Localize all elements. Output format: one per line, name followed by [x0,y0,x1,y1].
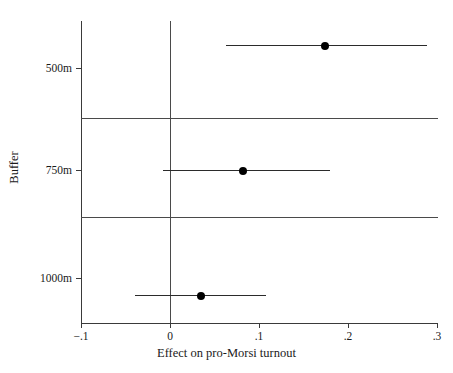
y-axis-title: Buffer [7,138,22,198]
x-tick-2 [259,323,260,328]
y-tick-label-500m: 500m [12,62,72,74]
estimate-marker-1000m [197,292,205,300]
x-tick-label-4: .3 [417,330,453,342]
coefficient-plot: −.10.1.2.3 500m750m1000m Effect on pro-M… [0,0,453,373]
x-tick-label-3: .2 [328,330,368,342]
estimate-marker-500m [321,42,329,50]
y-tick-label-1000m: 1000m [12,272,72,284]
x-tick-1 [170,323,171,328]
y-tick-1 [76,170,81,171]
x-tick-3 [348,323,349,328]
x-tick-0 [81,323,82,328]
panel-separator-1 [81,118,438,119]
panel-separator-2 [81,217,438,218]
x-tick-label-1: 0 [150,330,190,342]
x-axis-title: Effect on pro-Morsi turnout [0,346,453,361]
x-tick-4 [437,323,438,328]
zero-reference-line [170,21,171,324]
y-tick-0 [76,68,81,69]
x-tick-label-0: −.1 [61,330,101,342]
cropped-header-strip [0,0,453,9]
estimate-marker-750m [239,167,247,175]
y-axis-spine [81,21,82,324]
x-tick-label-2: .1 [239,330,279,342]
y-tick-2 [76,278,81,279]
